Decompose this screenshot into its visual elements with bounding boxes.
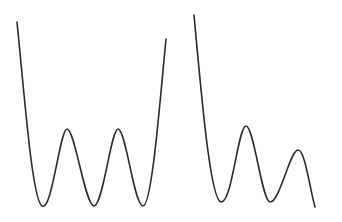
diagram-canvas — [0, 0, 342, 222]
tilted-multi-well-curve — [194, 15, 315, 207]
diagram-svg — [0, 0, 342, 222]
symmetric-triple-well-curve — [17, 22, 166, 206]
